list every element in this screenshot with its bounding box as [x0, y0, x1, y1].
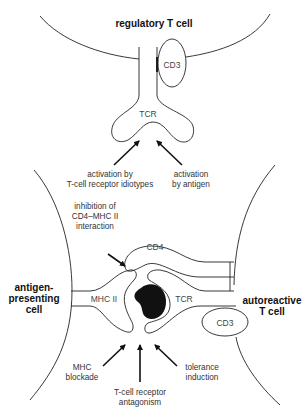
- cd3-top-label: CD3: [163, 60, 180, 70]
- tcr-antagonism-label-1: T-cell receptor: [114, 388, 166, 397]
- antigen-peptide: [134, 284, 166, 319]
- tcr-antagonism-label-2: antagonism: [119, 398, 162, 407]
- tolerance-label-2: induction: [186, 373, 219, 382]
- tcr-top-shape: [112, 47, 194, 142]
- antigen-label-1: activation: [174, 170, 209, 179]
- arrow-idiotype: [114, 141, 139, 165]
- tolerance-label-1: tolerance: [185, 363, 219, 372]
- mhc2-label: MHC II: [91, 294, 117, 304]
- idiotype-label-2: T-cell receptor idiotypes: [67, 180, 153, 189]
- regulatory-t-cell-label: regulatory T cell: [115, 18, 192, 29]
- arrow-mhc-blockade: [103, 345, 125, 366]
- autoreactive-label-2: T cell: [259, 306, 285, 317]
- cd4-inhibition-label-1: inhibition of: [74, 202, 116, 211]
- autoreactive-label-1: autoreactive: [243, 295, 302, 306]
- apc-label-3: cell: [26, 304, 43, 315]
- immune-interaction-diagram: regulatory T cell CD3 TCR activation by …: [0, 0, 308, 420]
- arrow-tolerance: [155, 345, 177, 366]
- idiotype-label-1: activation by: [87, 170, 133, 179]
- autoreactive-membrane-top: [234, 165, 275, 285]
- apc-label-1: antigen-: [15, 282, 54, 293]
- tcr-bottom-label: TCR: [175, 294, 192, 304]
- autoreactive-membrane-bottom: [236, 337, 280, 405]
- cd4-inhibition-label-2: CD4–MHC II: [72, 212, 118, 221]
- cd4-inhibition-label-3: interaction: [76, 222, 114, 231]
- tcr-top-label: TCR: [139, 109, 156, 119]
- arrow-cd4-inhibition: [108, 254, 125, 266]
- mhc-blockade-label-1: MHC: [73, 363, 92, 372]
- arrow-antigen: [157, 141, 182, 165]
- cd3-bottom-label: CD3: [216, 318, 233, 328]
- cd4-label: CD4: [146, 242, 163, 252]
- apc-label-2: presenting: [8, 293, 59, 304]
- cd4-shape: [125, 246, 234, 277]
- mhc-blockade-label-2: blockade: [66, 373, 99, 382]
- antigen-label-2: by antigen: [172, 180, 210, 189]
